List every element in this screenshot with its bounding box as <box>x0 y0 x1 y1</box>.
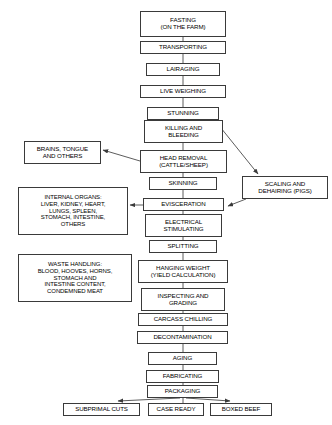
flow-node-head-removal: HEAD REMOVAL (CATTLE/SHEEP) <box>140 150 227 173</box>
flow-node-decontamination: DECONTAMINATION <box>137 331 228 344</box>
flow-edge-scaling-dehairing-to-evisceration <box>228 199 246 206</box>
flow-node-waste-handling: WASTE HANDLING: BLOOD, HOOVES, HORNS, ST… <box>18 254 132 302</box>
flow-node-live-weighing: LIVE WEIGHING <box>140 85 226 98</box>
flow-node-skinning: SKINNING <box>149 177 217 190</box>
flow-node-lairaging: LAIRAGING <box>146 63 220 76</box>
flow-node-inspecting: INSPECTING AND GRADING <box>141 288 225 311</box>
flow-node-splitting: SPLITTING <box>149 240 217 253</box>
flow-edge-packaging-to-subprimal-cuts <box>118 398 180 401</box>
flow-node-carcass-chilling: CARCASS CHILLING <box>138 313 228 326</box>
flow-node-evisceration: EVISCERATION <box>143 198 224 211</box>
flow-node-internal-organs: INTERNAL ORGANS: LIVER, KIDNEY, HEART, L… <box>18 187 128 235</box>
flow-node-subprimal-cuts: SUBPRIMAL CUTS <box>63 403 140 416</box>
flow-node-electrical-stim: ELECTRICAL STIMULATING <box>145 214 222 237</box>
flow-node-boxed-beef: BOXED BEEF <box>210 403 272 416</box>
flow-node-brains-tongue: BRAINS, TONGUE AND OTHERS <box>24 141 101 164</box>
flow-node-stunning: STUNNING <box>147 107 219 120</box>
flowchart-canvas: FASTING (ON THE FARM)TRANSPORTINGLAIRAGI… <box>0 0 332 425</box>
flow-node-hanging-weight: HANGING WEIGHT (YIELD CALCULATION) <box>138 260 228 283</box>
flow-node-killing-bleeding: KILLING AND BLEEDING <box>144 120 223 143</box>
flow-edge-head-removal-to-brains-tongue <box>103 150 140 161</box>
flow-node-fasting: FASTING (ON THE FARM) <box>140 11 226 37</box>
flow-node-transporting: TRANSPORTING <box>140 41 226 54</box>
flow-node-packaging: PACKAGING <box>147 385 218 398</box>
flow-node-scaling-dehairing: SCALING AND DEHAIRING (PIGS) <box>242 176 328 199</box>
flow-edge-packaging-to-boxed-beef <box>186 398 230 401</box>
flow-node-case-ready: CASE READY <box>148 403 204 416</box>
flow-node-aging: AGING <box>148 352 217 365</box>
flow-node-fabricating: FABRICATING <box>146 370 219 383</box>
